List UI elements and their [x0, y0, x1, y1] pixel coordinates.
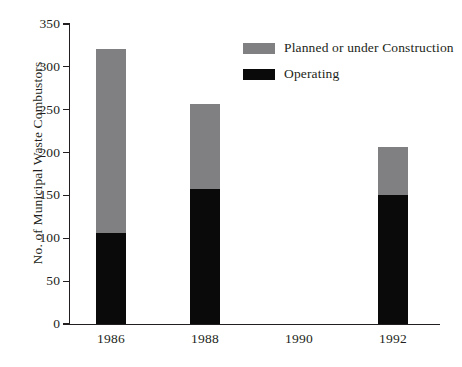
- y-axis-tick-label: 250: [16, 103, 60, 117]
- legend-swatch: [243, 69, 275, 80]
- legend-item: Operating: [243, 64, 454, 84]
- y-axis-tick: [63, 152, 70, 153]
- bar-segment-operating: [190, 189, 220, 324]
- y-axis-tick: [63, 109, 70, 110]
- legend-label: Operating: [284, 66, 339, 82]
- y-axis-tick: [63, 281, 70, 282]
- y-axis-tick-label: 0: [16, 317, 60, 331]
- x-axis-tick-label: 1988: [170, 331, 240, 347]
- y-axis-tick-label: 150: [16, 188, 60, 202]
- bar-segment-planned: [96, 49, 126, 233]
- y-axis-tick: [63, 23, 70, 24]
- legend-swatch: [243, 43, 275, 54]
- y-axis-tick-label: 200: [16, 146, 60, 160]
- legend-item: Planned or under Construction: [243, 38, 454, 58]
- x-axis-tick-label: 1990: [264, 331, 334, 347]
- bar-segment-operating: [378, 195, 408, 324]
- x-axis-tick-label: 1992: [358, 331, 428, 347]
- bar-segment-planned: [378, 147, 408, 196]
- y-axis-tick-label: 350: [16, 17, 60, 31]
- bar-group: [378, 147, 408, 324]
- bar-group: [96, 49, 126, 324]
- legend-label: Planned or under Construction: [284, 40, 454, 56]
- y-axis-tick: [63, 195, 70, 196]
- x-axis-tick-label: 1986: [76, 331, 146, 347]
- y-axis-tick-label: 50: [16, 274, 60, 288]
- bar-segment-planned: [190, 104, 220, 190]
- bar-chart-figure: No. of Municipal Waste Combustors 050100…: [0, 0, 462, 367]
- chart-legend: Planned or under ConstructionOperating: [243, 38, 454, 90]
- bar-segment-operating: [96, 233, 126, 324]
- y-axis-tick: [63, 66, 70, 67]
- y-axis-tick: [63, 238, 70, 239]
- y-axis-tick-label: 300: [16, 60, 60, 74]
- y-axis-tick: [63, 323, 70, 324]
- y-axis-tick-label: 100: [16, 231, 60, 245]
- bar-group: [190, 104, 220, 324]
